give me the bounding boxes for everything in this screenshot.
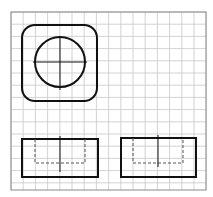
drawing-canvas <box>0 0 213 197</box>
